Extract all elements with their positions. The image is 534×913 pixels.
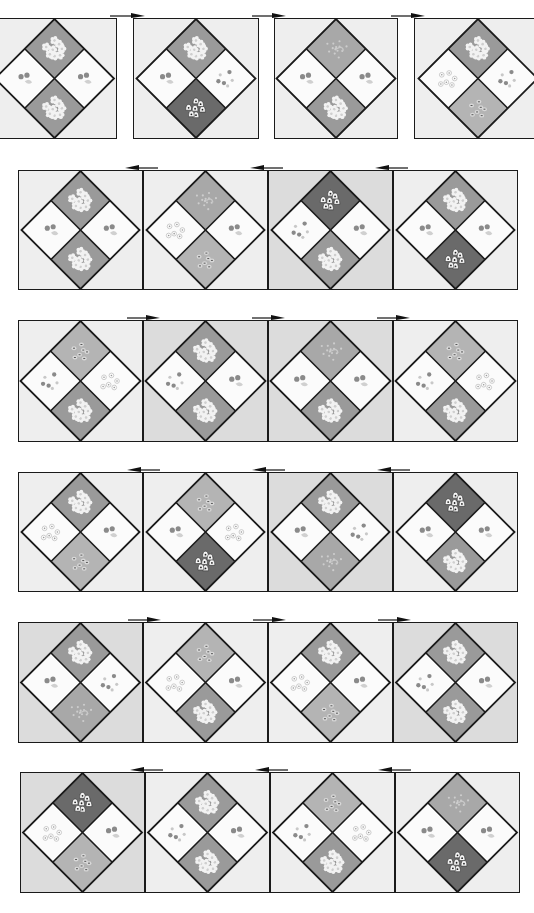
quilt-block-6-1: [20, 772, 145, 893]
quilt-block-6-4: [395, 772, 520, 893]
arrow-right-icon: [253, 610, 286, 618]
quilt-block-3-4: [393, 320, 518, 442]
arrow-left-icon: [250, 158, 283, 166]
quilt-block-4-4: [393, 472, 518, 592]
arrow-left-icon: [252, 460, 285, 468]
quilt-block-2-3: [268, 170, 393, 290]
quilt-block-3-1: [18, 320, 143, 442]
quilt-block-1-2: [133, 18, 259, 139]
quilt-block-5-4: [393, 622, 518, 743]
quilt-block-4-2: [143, 472, 268, 592]
arrow-right-icon: [127, 308, 160, 316]
arrow-right-icon: [252, 308, 285, 316]
quilt-block-3-2: [143, 320, 268, 442]
quilt-block-4-3: [268, 472, 393, 592]
quilt-block-3-3: [268, 320, 393, 442]
quilt-block-5-1: [18, 622, 143, 743]
arrow-right-icon: [252, 6, 286, 14]
arrow-right-icon: [378, 610, 411, 618]
arrow-left-icon: [377, 460, 410, 468]
arrow-right-icon: [377, 308, 410, 316]
arrow-right-icon: [128, 610, 161, 618]
arrow-left-icon: [375, 158, 408, 166]
quilt-block-2-2: [143, 170, 268, 290]
arrow-left-icon: [378, 760, 411, 768]
arrow-left-icon: [127, 460, 160, 468]
quilt-block-2-1: [18, 170, 143, 290]
quilt-block-4-1: [18, 472, 143, 592]
arrow-left-icon: [130, 760, 163, 768]
quilt-block-2-4: [393, 170, 518, 290]
arrow-right-icon: [391, 6, 425, 14]
arrow-left-icon: [125, 158, 158, 166]
quilt-block-1-3: [274, 18, 398, 139]
quilt-block-6-3: [270, 772, 395, 893]
arrow-right-icon: [110, 6, 145, 14]
arrow-left-icon: [255, 760, 288, 768]
quilt-block-1-4: [414, 18, 534, 139]
quilt-block-6-2: [145, 772, 270, 893]
quilt-block-5-3: [268, 622, 393, 743]
quilt-block-5-2: [143, 622, 268, 743]
quilt-block-1-1: [0, 18, 117, 139]
